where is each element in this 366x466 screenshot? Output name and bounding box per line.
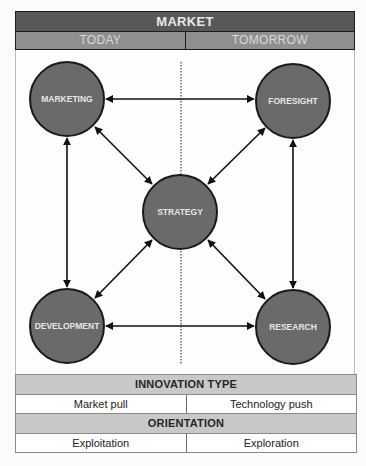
classification-table: INNOVATION TYPE Market pull Technology p… — [15, 374, 357, 453]
innovation-type-header: INNOVATION TYPE — [16, 375, 356, 395]
innovation-type-row: Market pull Technology push — [16, 395, 356, 413]
node-foresight: FORESIGHT — [256, 64, 330, 138]
arrow-foresight-strategy — [208, 128, 265, 184]
node-label: STRATEGY — [157, 207, 203, 217]
orientation-today: Exploitation — [16, 434, 186, 452]
innovation-type-today: Market pull — [16, 395, 186, 413]
innovation-type-tomorrow: Technology push — [186, 395, 357, 413]
arrow-development-strategy — [95, 240, 152, 298]
arrow-research-strategy — [208, 240, 265, 299]
node-research: RESEARCH — [256, 290, 330, 364]
node-label: FORESIGHT — [268, 96, 318, 106]
node-development: DEVELOPMENT — [30, 289, 104, 363]
orientation-tomorrow: Exploration — [186, 434, 357, 452]
orientation-row: Exploitation Exploration — [16, 434, 356, 452]
orientation-header: ORIENTATION — [16, 413, 356, 434]
node-label: DEVELOPMENT — [35, 321, 101, 331]
node-label: RESEARCH — [269, 322, 317, 332]
arrow-marketing-strategy — [95, 127, 152, 184]
node-marketing: MARKETING — [30, 62, 104, 136]
node-strategy: STRATEGY — [143, 175, 217, 249]
node-label: MARKETING — [41, 94, 93, 104]
